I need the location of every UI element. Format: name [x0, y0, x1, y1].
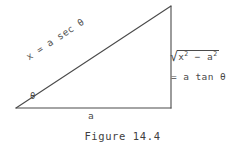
- radicand-operator: −: [189, 51, 207, 62]
- opposite-side-equals-label: = a tan θ: [171, 71, 226, 82]
- radicand-group: x2 − a2: [177, 50, 218, 62]
- radicand-second-exponent: 2: [213, 49, 217, 57]
- triangle-hypotenuse-line: [16, 6, 171, 108]
- figure-caption: Figure 14.4: [0, 130, 245, 142]
- angle-theta-label: θ: [30, 91, 36, 101]
- opposite-side-radical-label: √ x2 − a2: [170, 50, 219, 62]
- base-side-label: a: [88, 110, 94, 121]
- radical-sign-icon: √: [170, 51, 178, 63]
- figure-container: x = a sec θ √ x2 − a2 = a tan θ a θ Figu…: [0, 0, 245, 149]
